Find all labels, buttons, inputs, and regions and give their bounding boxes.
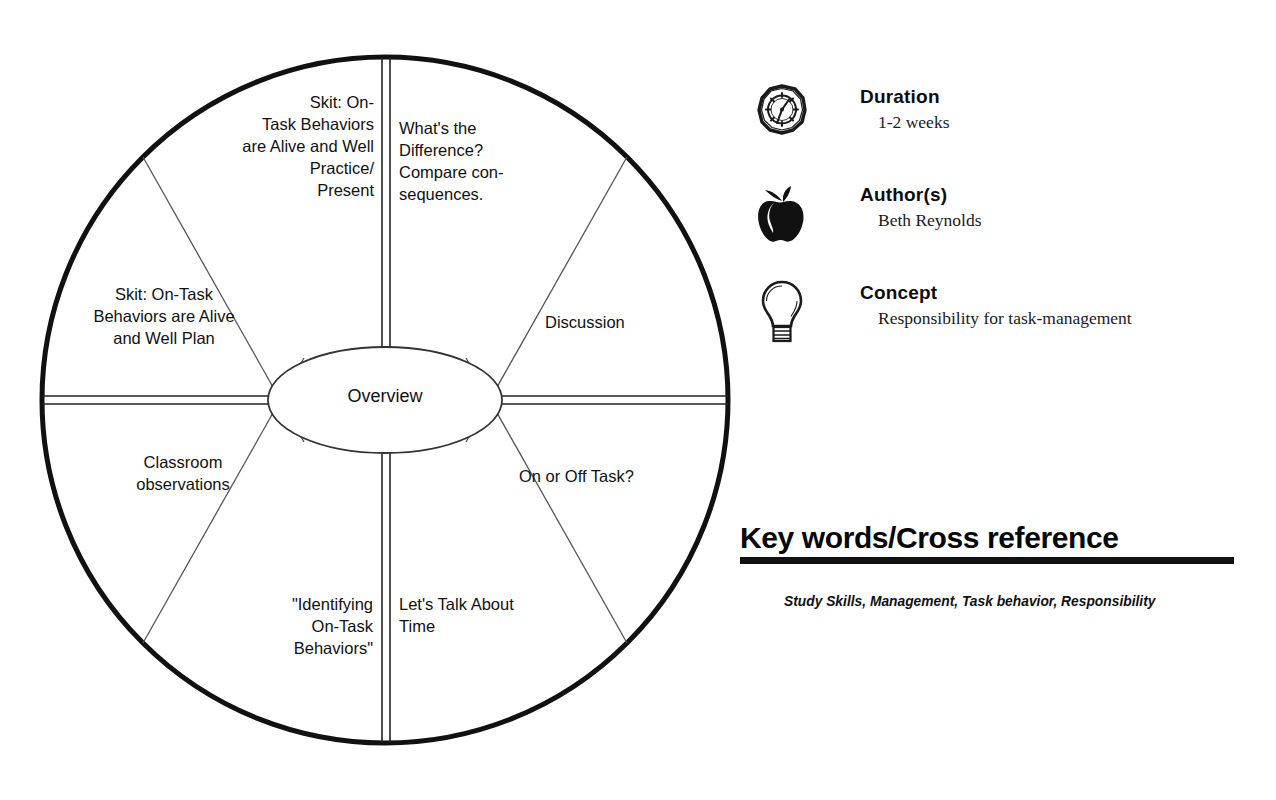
segment-label-skit-practice-present: Skit: On- Task Behaviors are Alive and W… — [196, 92, 374, 202]
metadata-item-concept: Concept Responsibility for task-manageme… — [752, 274, 1252, 372]
segment-label-skit-plan: Skit: On-Task Behaviors are Alive and We… — [48, 284, 280, 350]
segment-label-classroom-observations: Classroom observations — [93, 452, 273, 496]
segment-label-whats-the-difference: What's the Difference? Compare con- sequ… — [399, 118, 589, 206]
keywords-section: Key words/Cross reference Study Skills, … — [740, 522, 1240, 612]
metadata-item-duration: Duration 1-2 weeks — [752, 78, 1252, 176]
wheel-center-label: Overview — [300, 385, 470, 409]
metadata-value-duration: 1-2 weeks — [878, 112, 1252, 133]
apple-icon — [752, 176, 814, 250]
keywords-divider — [740, 557, 1234, 564]
keywords-value: Study Skills, Management, Task behavior,… — [784, 590, 1170, 613]
keywords-title: Key words/Cross reference — [740, 522, 1240, 554]
metadata-heading-authors: Author(s) — [860, 184, 1252, 206]
metadata-list: Duration 1-2 weeks Author(s) Beth Reynol… — [752, 78, 1252, 372]
curriculum-wheel: Overview Skit: On- Task Behaviors are Al… — [0, 0, 760, 800]
segment-label-lets-talk-about-time: Let's Talk About Time — [399, 594, 579, 638]
metadata-heading-duration: Duration — [860, 86, 1252, 108]
segment-label-identifying-on-task-behaviors: "Identifying On-Task Behaviors" — [205, 594, 373, 660]
metadata-item-authors: Author(s) Beth Reynolds — [752, 176, 1252, 274]
metadata-value-authors: Beth Reynolds — [878, 210, 1252, 231]
metadata-heading-concept: Concept — [860, 282, 1252, 304]
diagram-page: Overview Skit: On- Task Behaviors are Al… — [0, 0, 1276, 800]
metadata-value-concept: Responsibility for task-management — [878, 308, 1252, 329]
segment-label-discussion: Discussion — [545, 312, 715, 334]
lightbulb-icon — [752, 274, 814, 348]
segment-label-on-or-off-task: On or Off Task? — [519, 466, 709, 488]
clock-icon — [752, 78, 814, 152]
